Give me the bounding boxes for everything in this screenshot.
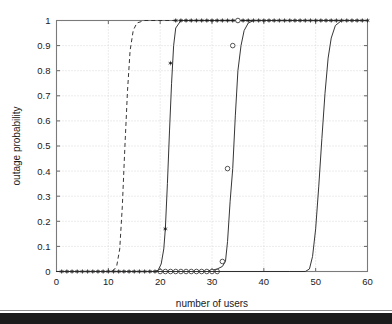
data-point-marker-core [201,20,203,22]
x-tick-label: 20 [155,276,166,287]
x-tick-label: 10 [103,276,114,287]
y-tick-label: 0.3 [37,191,50,202]
y-axis-title: outage probability [11,107,22,186]
y-tick-label: 0 [45,266,50,277]
y-tick-label: 1 [45,15,50,26]
x-tick-label: 50 [310,276,321,287]
data-point-marker [236,18,241,23]
data-point-marker-core [164,228,166,230]
data-point-marker [230,43,235,48]
data-point-marker-core [227,20,229,22]
x-tick-labels: 0102030405060 [54,276,373,287]
data-point-marker-core [206,20,208,22]
x-tick-label: 0 [54,276,59,287]
data-point-marker-core [216,20,218,22]
y-tick-label: 0.7 [37,90,50,101]
y-tick-label: 0.9 [37,40,50,51]
y-tick-labels: 00.10.20.30.40.50.60.70.80.91 [37,15,50,277]
data-point-marker-core [221,20,223,22]
x-tick-label: 40 [259,276,270,287]
x-axis-title: number of users [176,298,248,309]
series-markers [60,18,370,274]
data-point-marker-core [211,20,213,22]
data-point-marker-core [232,20,234,22]
data-point-marker [225,166,230,171]
outage-probability-chart: 0102030405060 00.10.20.30.40.50.60.70.80… [0,0,392,324]
page-edge-hairline [0,310,392,311]
page-bottom-band [0,313,392,324]
y-tick-label: 0.1 [37,241,50,252]
y-tick-label: 0.8 [37,65,50,76]
y-tick-label: 0.2 [37,216,50,227]
data-point-marker-core [242,20,244,22]
figure-container: 0102030405060 00.10.20.30.40.50.60.70.80… [0,0,392,324]
y-tick-label: 0.6 [37,115,50,126]
y-tick-label: 0.5 [37,140,50,151]
data-point-marker [220,259,225,264]
x-tick-label: 30 [207,276,218,287]
data-point-marker-core [175,20,177,22]
data-point-marker-core [185,20,187,22]
grid-layer [57,21,368,272]
x-tick-label: 60 [362,276,373,287]
y-tick-label: 0.4 [37,166,50,177]
data-point-marker-core [190,20,192,22]
data-point-marker-core [170,62,172,64]
data-point-marker-core [247,20,249,22]
data-point-marker-core [180,20,182,22]
data-point-marker-core [196,20,198,22]
